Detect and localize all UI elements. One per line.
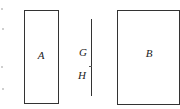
vertical-segment: [91, 19, 92, 96]
rectangle-a-label: A: [38, 50, 45, 61]
point-h-label: H: [78, 70, 86, 81]
edge-mark: [1, 66, 3, 68]
edge-mark: [2, 28, 4, 30]
edge-mark: [1, 8, 3, 10]
rectangle-b-label: B: [146, 48, 153, 59]
edge-mark: [2, 88, 4, 90]
diagram-canvas: A G H B: [0, 0, 180, 109]
segment-tick: [89, 66, 92, 67]
point-g-label: G: [79, 47, 87, 58]
